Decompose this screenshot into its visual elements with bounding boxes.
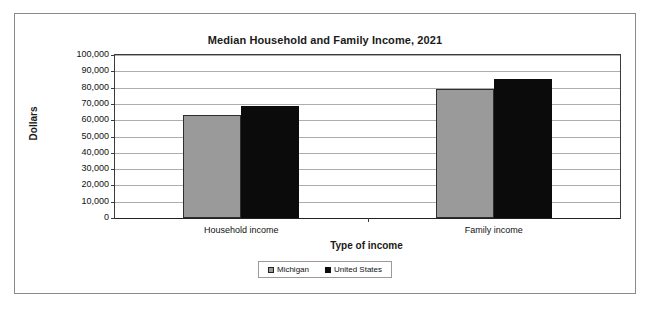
x-axis-tick-mark <box>368 218 369 222</box>
y-axis-tick-mark <box>111 71 115 72</box>
legend-item-michigan[interactable]: Michigan <box>268 265 309 274</box>
y-axis-tick-label: 50,000 <box>47 131 109 141</box>
y-axis-tick-mark <box>111 218 115 219</box>
y-axis-tick-labels: 100,00090,00080,00070,00060,00050,00040,… <box>47 54 109 218</box>
legend-label: Michigan <box>277 265 309 274</box>
gridline <box>115 55 620 56</box>
gridline <box>115 71 620 72</box>
chart-container: Median Household and Family Income, 2021… <box>14 13 636 294</box>
y-axis-tick-label: 90,000 <box>47 65 109 75</box>
y-axis-tick-mark <box>111 169 115 170</box>
y-axis-tick-mark <box>111 88 115 89</box>
y-axis-tick-label: 30,000 <box>47 163 109 173</box>
y-axis-tick-mark <box>111 104 115 105</box>
y-axis-title: Dollars <box>28 84 39 164</box>
y-axis-tick-label: 70,000 <box>47 98 109 108</box>
y-axis-tick-mark <box>111 120 115 121</box>
x-axis-title: Type of income <box>114 240 619 251</box>
y-axis-tick-label: 60,000 <box>47 114 109 124</box>
y-axis-tick-mark <box>111 55 115 56</box>
y-axis-tick-label: 80,000 <box>47 82 109 92</box>
y-axis-tick-mark <box>111 185 115 186</box>
y-axis-tick-mark <box>111 137 115 138</box>
y-axis-tick-label: 10,000 <box>47 196 109 206</box>
bar-michigan-household-income <box>183 115 241 218</box>
bar-michigan-family-income <box>436 89 494 218</box>
plot-area: Household incomeFamily income <box>114 54 621 219</box>
legend-item-united-states[interactable]: United States <box>325 265 382 274</box>
chart-legend: MichiganUnited States <box>258 261 392 278</box>
y-axis-tick-label: 100,000 <box>47 49 109 59</box>
bar-united-states-household-income <box>241 106 299 218</box>
y-axis-tick-label: 20,000 <box>47 179 109 189</box>
y-axis-tick-label: 0 <box>47 212 109 222</box>
legend-swatch-icon <box>325 267 331 273</box>
y-axis-tick-label: 40,000 <box>47 147 109 157</box>
y-axis-tick-mark <box>111 153 115 154</box>
y-axis-tick-mark <box>111 202 115 203</box>
x-axis-category-label: Family income <box>414 225 574 235</box>
x-axis-category-label: Household income <box>161 225 321 235</box>
chart-title: Median Household and Family Income, 2021 <box>15 34 635 46</box>
legend-label: United States <box>334 265 382 274</box>
legend-swatch-icon <box>268 267 274 273</box>
bar-united-states-family-income <box>494 79 552 218</box>
